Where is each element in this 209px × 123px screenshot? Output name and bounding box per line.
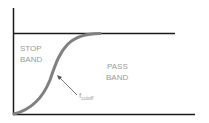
pass-band-label-line2: BAND xyxy=(106,73,128,82)
pass-band-label-line1: PASS xyxy=(107,62,128,71)
stop-band-label-line2: BAND xyxy=(20,55,42,64)
cutoff-label-subscript: cutoff xyxy=(81,95,94,101)
filter-response-diagram: STOP BAND PASS BAND fcutoff xyxy=(0,0,209,123)
cutoff-label: fcutoff xyxy=(79,91,94,101)
cutoff-arrow-line xyxy=(58,76,77,95)
stop-band-label-line1: STOP xyxy=(20,44,42,53)
